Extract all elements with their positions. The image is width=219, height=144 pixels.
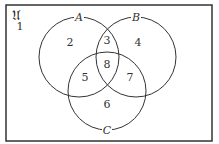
region-4: 4 — [135, 36, 142, 49]
region-8: 8 — [104, 58, 111, 71]
region-7: 7 — [127, 71, 134, 84]
set-label-a: A — [74, 11, 83, 24]
region-2: 2 — [67, 36, 74, 49]
set-label-c: C — [103, 124, 112, 137]
region-1: 1 — [17, 20, 24, 33]
set-label-b: B — [131, 11, 140, 24]
region-5: 5 — [82, 71, 89, 84]
region-6: 6 — [104, 98, 111, 111]
venn-diagram: 𝔘 A B C 1 2 3 4 8 5 7 6 — [0, 0, 219, 144]
region-3: 3 — [104, 34, 111, 47]
circle-b — [96, 17, 176, 97]
universe-frame — [6, 5, 212, 141]
